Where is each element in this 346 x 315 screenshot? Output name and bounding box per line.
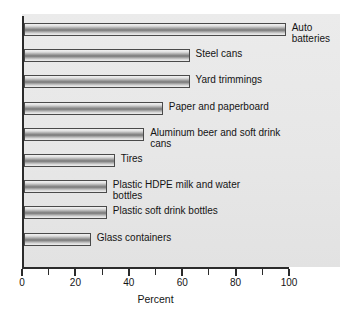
bar [24,128,144,141]
x-axis-major-tick [128,269,130,276]
x-axis-major-tick [181,269,183,276]
x-axis-major-tick [235,269,237,276]
x-axis-major-tick [288,269,290,276]
x-axis-minor-tick [262,269,263,275]
bar-row: Paper and paperboard [24,102,313,115]
bar-row: Plastic soft drink bottles [24,206,257,219]
x-axis-minor-tick [102,269,103,275]
bar-label: Plastic HDPE milk and water bottles [113,179,257,201]
bar-label: Tires [121,153,143,164]
bar-row: Aluminum beer and soft drink cans [24,128,294,141]
bar-label: Auto batteries [292,22,330,44]
bar-row: Tires [24,154,265,167]
bar-row: Glass containers [24,233,241,246]
bar [24,154,115,167]
bar [24,233,91,246]
bar [24,206,107,219]
bar [24,23,286,36]
x-axis-minor-tick [208,269,209,275]
x-axis-tick-label: 0 [19,277,25,288]
x-axis-major-tick [74,269,76,276]
x-axis-tick-label: 80 [230,277,241,288]
bar-row: Auto batteries [24,23,346,36]
bar-label: Yard trimmings [196,74,263,85]
bar [24,180,107,193]
x-axis-minor-tick [48,269,49,275]
x-axis-title: Percent [22,293,289,305]
bar-label: Steel cans [196,48,243,59]
bar [24,75,190,88]
bar-label: Paper and paperboard [169,101,269,112]
x-axis-tick-label: 40 [123,277,134,288]
bar-chart: 020406080100 Auto batteriesSteel cansYar… [0,0,346,315]
bar [24,49,190,62]
bar-label: Aluminum beer and soft drink cans [150,127,294,149]
x-axis-major-tick [21,269,23,276]
x-axis-minor-tick [155,269,156,275]
x-axis-tick-label: 100 [281,277,298,288]
bar-row: Plastic HDPE milk and water bottles [24,180,257,193]
x-axis-tick-label: 60 [177,277,188,288]
bar [24,102,163,115]
bar-row: Steel cans [24,49,340,62]
bar-label: Glass containers [97,232,171,243]
bar-row: Yard trimmings [24,75,340,88]
bar-label: Plastic soft drink bottles [113,205,218,216]
x-axis-tick-label: 20 [70,277,81,288]
